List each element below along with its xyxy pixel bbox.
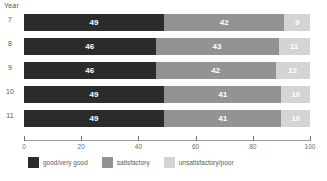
x-axis-tick-label: 40 <box>135 143 142 150</box>
bar-segment-unsatisfactory-poor: 12 <box>276 62 310 79</box>
row-label-year-8: 8 <box>0 40 20 47</box>
bar-segment-satisfactory: 43 <box>156 38 279 55</box>
x-axis-tick-label: 20 <box>78 143 85 150</box>
bar-segment-good-very-good: 49 <box>24 14 164 31</box>
x-axis-tick <box>196 136 197 141</box>
bar-segment-unsatisfactory-poor: 10 <box>281 86 310 103</box>
legend-item-good-very-good: good/very good <box>28 157 88 168</box>
x-axis-tick <box>253 136 254 141</box>
row-label-year-11: 11 <box>0 112 20 119</box>
x-axis <box>24 140 310 141</box>
x-axis-tick <box>138 136 139 141</box>
y-axis-title: Year <box>4 2 19 9</box>
legend-item-unsatisfactory-poor: unsatisfactory/poor <box>164 157 234 168</box>
bar-row: 46 43 11 <box>24 38 310 55</box>
bar-row: 46 42 12 <box>24 62 310 79</box>
row-label-year-9: 9 <box>0 64 20 71</box>
legend-swatch-icon <box>164 157 175 168</box>
plot-area: 49 42 9 46 43 11 46 42 12 49 41 10 49 41… <box>24 12 310 134</box>
x-axis-tick <box>24 136 25 141</box>
bar-segment-satisfactory: 42 <box>164 14 284 31</box>
bar-segment-satisfactory: 41 <box>164 86 281 103</box>
bar-row: 49 41 10 <box>24 86 310 103</box>
legend-item-satisfactory: satisfactory <box>102 157 150 168</box>
bar-segment-satisfactory: 42 <box>156 62 276 79</box>
x-axis-tick-label: 100 <box>305 143 316 150</box>
row-label-year-10: 10 <box>0 88 20 95</box>
legend-label: unsatisfactory/poor <box>179 159 234 166</box>
x-axis-tick-label: 80 <box>249 143 256 150</box>
bar-segment-good-very-good: 46 <box>24 62 156 79</box>
bar-segment-unsatisfactory-poor: 9 <box>284 14 310 31</box>
bar-segment-satisfactory: 41 <box>164 110 281 127</box>
bar-segment-unsatisfactory-poor: 11 <box>279 38 310 55</box>
bar-segment-good-very-good: 49 <box>24 110 164 127</box>
legend-swatch-icon <box>28 157 39 168</box>
legend-label: good/very good <box>43 159 88 166</box>
x-axis-tick <box>81 136 82 141</box>
x-axis-tick-label: 0 <box>22 143 26 150</box>
chart-legend: good/very good satisfactory unsatisfacto… <box>28 157 248 168</box>
bar-row: 49 42 9 <box>24 14 310 31</box>
x-axis-tick <box>310 136 311 141</box>
stacked-bar-chart: Year 7 8 9 10 11 49 42 9 46 43 11 46 42 … <box>0 0 327 181</box>
bar-segment-good-very-good: 49 <box>24 86 164 103</box>
bar-row: 49 41 10 <box>24 110 310 127</box>
legend-label: satisfactory <box>117 159 150 166</box>
bar-segment-unsatisfactory-poor: 10 <box>281 110 310 127</box>
row-label-year-7: 7 <box>0 16 20 23</box>
bar-segment-good-very-good: 46 <box>24 38 156 55</box>
x-axis-tick-label: 60 <box>192 143 199 150</box>
legend-swatch-icon <box>102 157 113 168</box>
